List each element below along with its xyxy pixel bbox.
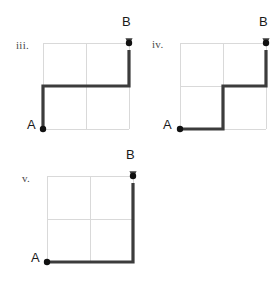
panel-iv-numeral: iv. [152, 38, 164, 50]
panel-iv-end-label: B [259, 14, 268, 29]
grid-lines [47, 176, 133, 262]
panel-iv [171, 34, 275, 138]
panel-v-canvas [38, 167, 142, 271]
panel-v-numeral: v. [22, 172, 30, 184]
start-point-dot [40, 126, 46, 132]
start-point-dot [177, 126, 183, 132]
panel-v-end-label: B [126, 147, 135, 162]
panel-iii-canvas [34, 34, 138, 138]
panel-iii-end-label: B [122, 14, 131, 29]
end-point-dot [130, 173, 136, 179]
panel-v-start-label: A [31, 250, 40, 265]
start-point-dot [44, 259, 50, 265]
end-point-dot [263, 40, 269, 46]
panel-iv-start-label: A [163, 117, 172, 132]
lattice-paths-figure: iii.ABiv.ABv.AB [0, 0, 275, 283]
panel-v [38, 167, 142, 271]
panel-iii [34, 34, 138, 138]
panel-iv-canvas [171, 34, 275, 138]
panel-iii-numeral: iii. [16, 39, 29, 51]
panel-iii-start-label: A [27, 117, 36, 132]
end-point-dot [126, 40, 132, 46]
